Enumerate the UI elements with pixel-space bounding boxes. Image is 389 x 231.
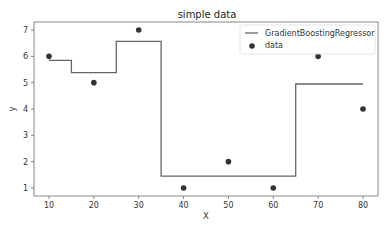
- data-point: [181, 185, 187, 191]
- data-point: [270, 185, 276, 191]
- data-point: [136, 27, 142, 33]
- data-point: [46, 54, 52, 60]
- legend: GradientBoostingRegressor data: [240, 25, 375, 54]
- chart: simple data 1234567 1020304050607080 X y…: [0, 0, 389, 231]
- x-tick-label: 40: [178, 201, 188, 210]
- y-tick-label: 5: [23, 79, 28, 88]
- legend-label-gbr: GradientBoostingRegressor: [265, 29, 375, 38]
- x-axis-label: X: [203, 211, 209, 221]
- x-tick-label: 30: [134, 201, 144, 210]
- data-point: [360, 106, 366, 112]
- y-tick-label: 3: [23, 131, 28, 140]
- x-tick-label: 10: [44, 201, 54, 210]
- x-tick-label: 80: [358, 201, 368, 210]
- x-axis-ticks: 1020304050607080: [44, 196, 368, 210]
- x-tick-label: 60: [268, 201, 278, 210]
- legend-label-data: data: [265, 41, 283, 50]
- y-tick-label: 4: [23, 105, 28, 114]
- y-tick-label: 1: [23, 184, 28, 193]
- legend-dot-icon: [249, 43, 255, 49]
- y-tick-label: 7: [23, 26, 28, 35]
- x-tick-label: 20: [89, 201, 99, 210]
- y-axis-label: y: [7, 106, 17, 111]
- x-tick-label: 50: [223, 201, 233, 210]
- data-point: [226, 159, 232, 165]
- y-axis-ticks: 1234567: [23, 26, 34, 193]
- y-tick-label: 6: [23, 52, 28, 61]
- y-tick-label: 2: [23, 158, 28, 167]
- x-tick-label: 70: [313, 201, 323, 210]
- chart-title: simple data: [178, 9, 237, 20]
- data-point: [91, 80, 97, 86]
